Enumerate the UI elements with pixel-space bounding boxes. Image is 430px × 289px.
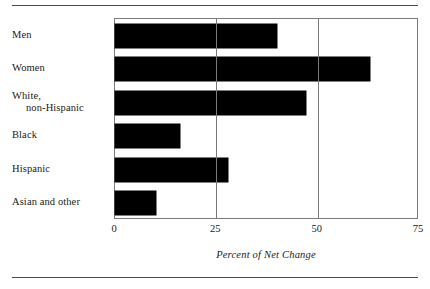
bar-row	[115, 120, 180, 154]
tick-label-0: 0	[111, 222, 116, 236]
category-label: White,non-Hispanic	[12, 85, 110, 119]
category-label: Men	[12, 18, 110, 52]
category-label-line: Hispanic	[12, 163, 110, 175]
plot-area	[114, 18, 418, 219]
bar-chart-figure: MenWomenWhite,non-HispanicBlackHispanicA…	[0, 0, 430, 289]
category-label: Asian and other	[12, 186, 110, 220]
bar-asian-and-other	[115, 191, 156, 215]
bar-women	[115, 57, 370, 81]
bar-row	[115, 86, 306, 120]
bar-row	[115, 153, 228, 187]
category-label-line: Black	[12, 129, 110, 141]
value-axis-tick-labels: 0255075	[114, 222, 418, 236]
bar-series	[115, 19, 417, 218]
bar-black	[115, 124, 180, 148]
bar-hispanic	[115, 158, 228, 182]
gridline-50	[318, 19, 319, 218]
tick-label-25: 25	[210, 222, 221, 236]
category-label-line: Women	[12, 62, 110, 74]
x-axis-title: Percent of Net Change	[114, 249, 418, 260]
category-label-line: non-Hispanic	[12, 102, 110, 114]
tick-label-75: 75	[413, 222, 424, 236]
category-label-line: White,	[12, 90, 110, 102]
category-label: Black	[12, 119, 110, 153]
bar-white	[115, 91, 306, 115]
bar-row	[115, 19, 277, 53]
category-label: Women	[12, 52, 110, 86]
bar-row	[115, 53, 370, 87]
gridline-25	[216, 19, 217, 218]
bar-row	[115, 187, 156, 221]
category-label-line: Men	[12, 29, 110, 41]
category-axis-labels: MenWomenWhite,non-HispanicBlackHispanicA…	[0, 18, 112, 219]
category-label-line: Asian and other	[12, 196, 110, 208]
category-label: Hispanic	[12, 152, 110, 186]
bar-men	[115, 24, 277, 48]
tick-label-50: 50	[311, 222, 322, 236]
